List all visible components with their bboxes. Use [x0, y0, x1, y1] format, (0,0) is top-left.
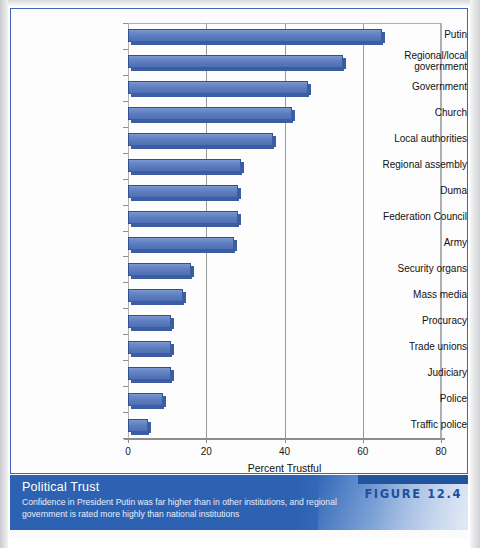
bar — [128, 211, 238, 224]
chart-panel: PutinRegional/local governmentGovernment… — [10, 8, 468, 474]
category-label: Security organs — [357, 263, 467, 274]
category-label: Putin — [357, 29, 467, 40]
caption-title: Political Trust — [22, 480, 99, 494]
figure-badge-bar — [358, 475, 468, 484]
x-tick-label-40: 40 — [270, 446, 300, 457]
bar — [128, 185, 238, 198]
bar — [128, 29, 382, 42]
bar — [128, 237, 234, 250]
x-tick-mark-0 — [128, 438, 129, 443]
page-edge-top — [0, 0, 480, 6]
page-edge-right — [470, 0, 480, 548]
x-tick-mark-40 — [285, 438, 286, 443]
category-label: Church — [357, 107, 467, 118]
y-tick-mark — [123, 334, 128, 335]
y-tick-mark — [123, 205, 128, 206]
y-tick-mark — [123, 75, 128, 76]
figure-number-badge: FIGURE 12.4 — [364, 487, 462, 501]
y-tick-mark — [123, 127, 128, 128]
bar — [128, 341, 171, 354]
bar — [128, 133, 273, 146]
category-label: Government — [357, 81, 467, 92]
y-tick-mark — [123, 101, 128, 102]
category-label: Procuracy — [357, 315, 467, 326]
category-label: Mass media — [357, 289, 467, 300]
bar — [128, 393, 163, 406]
x-tick-mark-20 — [206, 438, 207, 443]
x-tick-mark-80 — [441, 438, 442, 443]
bar — [128, 367, 171, 380]
y-tick-mark — [123, 153, 128, 154]
bar — [128, 159, 241, 172]
bar — [128, 315, 171, 328]
category-label: Judiciary — [357, 367, 467, 378]
x-tick-mark-60 — [363, 438, 364, 443]
y-tick-mark — [123, 308, 128, 309]
category-label: Regional assembly — [357, 159, 467, 170]
category-label: Police — [357, 393, 467, 404]
y-tick-mark — [123, 412, 128, 413]
category-label: Regional/local government — [357, 50, 467, 72]
bar — [128, 289, 183, 302]
y-tick-mark — [123, 360, 128, 361]
x-axis-title: Percent Trustful — [128, 462, 441, 474]
caption-subtitle: Confidence in President Putin was far hi… — [22, 497, 367, 520]
y-tick-mark — [123, 179, 128, 180]
bar — [128, 107, 292, 120]
bar — [128, 419, 148, 432]
source-note — [12, 532, 452, 542]
y-tick-mark — [123, 256, 128, 257]
y-tick-mark — [123, 386, 128, 387]
caption-band: Political Trust Confidence in President … — [10, 475, 468, 530]
y-tick-mark — [123, 23, 128, 24]
x-tick-label-80: 80 — [426, 446, 456, 457]
category-label: Local authorities — [357, 133, 467, 144]
bar — [128, 81, 308, 94]
bar — [128, 55, 343, 68]
x-tick-label-0: 0 — [113, 446, 143, 457]
category-label: Duma — [357, 185, 467, 196]
category-label: Trade unions — [357, 341, 467, 352]
category-label: Traffic police — [357, 419, 467, 430]
y-tick-mark — [123, 49, 128, 50]
x-tick-label-60: 60 — [348, 446, 378, 457]
bar — [128, 263, 191, 276]
page-edge-left — [0, 0, 8, 548]
x-tick-label-20: 20 — [191, 446, 221, 457]
figure-card: PutinRegional/local governmentGovernment… — [10, 8, 468, 538]
category-label: Army — [357, 237, 467, 248]
y-tick-mark — [123, 282, 128, 283]
y-tick-mark — [123, 231, 128, 232]
category-label: Federation Council — [357, 211, 467, 222]
